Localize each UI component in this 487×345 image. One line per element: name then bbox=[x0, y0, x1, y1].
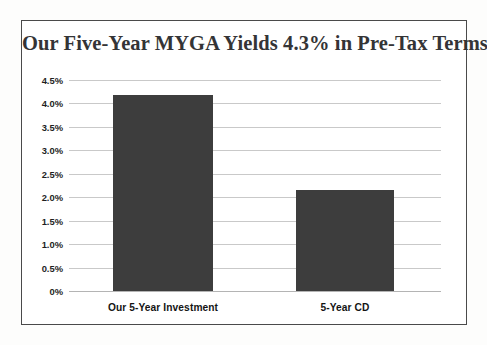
y-axis-tick-label: 0.5% bbox=[42, 262, 63, 273]
x-axis-category-label: 5-Year CD bbox=[320, 302, 369, 313]
plot-area: 4.5%4.0%3.5%3.0%2.5%2.0%1.5%1.0%0.5%0%Ou… bbox=[69, 60, 441, 311]
y-axis-tick-label: 4.0% bbox=[42, 98, 63, 109]
y-axis-tick-label: 1.0% bbox=[42, 239, 63, 250]
bar-2[interactable] bbox=[296, 190, 394, 291]
page-title: Our Five-Year MYGA Yields 4.3% in Pre-Ta… bbox=[22, 32, 468, 55]
y-axis-tick-label: 3.0% bbox=[42, 145, 63, 156]
y-axis-tick-label: 2.5% bbox=[42, 168, 63, 179]
y-axis-tick-label: 2.0% bbox=[42, 192, 63, 203]
gridline-4.5% bbox=[69, 80, 441, 81]
y-axis-tick-label: 4.5% bbox=[42, 75, 63, 86]
x-axis-category-label: Our 5-Year Investment bbox=[108, 302, 218, 313]
chart-card: Our Five-Year MYGA Yields 4.3% in Pre-Ta… bbox=[21, 20, 467, 325]
y-axis-tick-label: 3.5% bbox=[42, 121, 63, 132]
y-axis-tick-label: 0% bbox=[49, 286, 63, 297]
gridline-0% bbox=[69, 291, 441, 292]
bar-1[interactable] bbox=[113, 95, 213, 291]
chart-page: Our Five-Year MYGA Yields 4.3% in Pre-Ta… bbox=[0, 0, 487, 345]
y-axis-tick-label: 1.5% bbox=[42, 215, 63, 226]
